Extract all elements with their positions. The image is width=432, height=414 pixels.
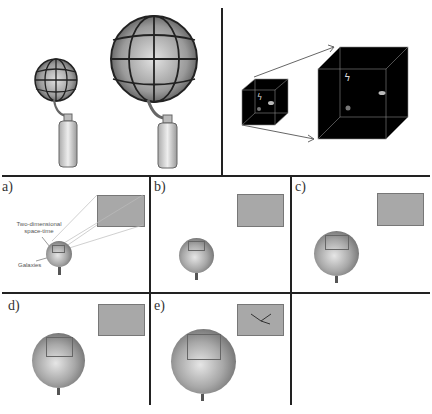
panel-a: a) Two-dimensional space-time Galaxies [0, 177, 149, 292]
balloon-stem-e [201, 394, 204, 401]
balloons-illustration [0, 0, 220, 175]
region-box-b [188, 241, 205, 251]
region-box-d [46, 337, 73, 357]
balloon-stem-c [335, 276, 338, 283]
annotation-spacetime: Two-dimensional space-time [14, 221, 64, 235]
svg-text:ϟ: ϟ [257, 93, 262, 102]
region-box-e [187, 334, 221, 360]
panel-c: c) [292, 177, 432, 292]
annotation-galaxies: Galaxies [18, 262, 41, 269]
balloon-stem-b [195, 273, 198, 280]
balloon-diagram [0, 0, 220, 175]
panel-e: e) [151, 294, 290, 406]
panel-label-c: c) [295, 179, 306, 195]
panel-c-inset [377, 193, 424, 226]
balloon-stem-d [57, 388, 60, 395]
panel-d-inset [98, 304, 145, 336]
panel-label-b: b) [154, 179, 166, 195]
cubes-illustration: ϟ ϟ [222, 0, 432, 175]
panel-b: b) [151, 177, 290, 292]
galaxy-motion-arrows [237, 304, 282, 334]
panel-label-d: d) [8, 298, 20, 314]
panel-b-inset [237, 194, 284, 227]
region-box-a [52, 245, 65, 253]
svg-text:ϟ: ϟ [344, 72, 351, 83]
panel-d: d) [0, 294, 149, 406]
cube-diagram: ϟ ϟ [222, 0, 432, 175]
panel-label-e: e) [154, 298, 165, 314]
balloon-stem-a [58, 267, 61, 275]
region-box-c [325, 235, 349, 250]
